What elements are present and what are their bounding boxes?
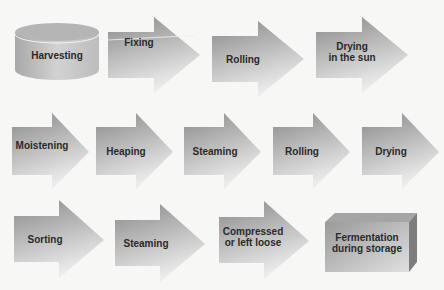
arrow-drying: Drying (362, 113, 442, 189)
step-label: Drying in the sun (316, 32, 388, 72)
step-label: Drying (362, 127, 420, 175)
step-label: Rolling (273, 127, 331, 175)
arrow-steaming-2: Steaming (115, 204, 207, 282)
arrow-drying-in-sun: Drying in the sun (316, 17, 410, 93)
step-label: Steaming (184, 127, 246, 175)
arrow-fixing: Fixing (108, 17, 202, 93)
step-label: Rolling (212, 36, 274, 82)
step-label: Heaping (96, 127, 156, 175)
arrow-steaming-1: Steaming (184, 113, 264, 189)
fermentation-box: Fermentation during storage (323, 212, 419, 274)
step-label: Moistening (12, 127, 72, 163)
step-label: Steaming (115, 220, 177, 266)
arrow-moistening: Moistening (12, 113, 92, 189)
step-label: Sorting (14, 216, 76, 262)
step-label: Compressed or left loose (219, 217, 287, 257)
arrow-sorting: Sorting (14, 200, 106, 278)
step-label: Fixing (108, 32, 170, 52)
fermentation-label: Fermentation during storage (325, 222, 409, 264)
arrow-heaping: Heaping (96, 113, 176, 189)
arrow-right-icon (108, 17, 202, 93)
arrow-rolling-1: Rolling (212, 21, 306, 97)
harvesting-label: Harvesting (14, 40, 100, 70)
arrow-compressed: Compressed or left loose (219, 201, 311, 279)
arrow-rolling-2: Rolling (273, 113, 353, 189)
harvesting-cylinder: Harvesting (14, 22, 100, 82)
